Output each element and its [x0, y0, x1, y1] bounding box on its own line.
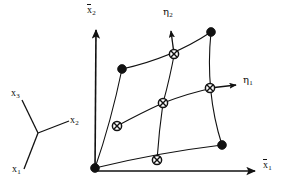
edge-left [95, 69, 122, 168]
node-4-corner [118, 65, 127, 74]
node-9-center [158, 98, 167, 107]
x2-arm-label-subscript: 2 [75, 119, 79, 127]
x3-arm-label-subscript: 3 [16, 92, 20, 100]
natural-axes-group [171, 31, 236, 88]
x1bar-axis-label-subscript: 1 [268, 164, 272, 172]
eta1-axis-label: η1 [243, 75, 253, 87]
figure-canvas: x2 x1 x3 x2 x1 η2 η1 [0, 0, 286, 189]
x2bar-axis-label: x2 [87, 5, 96, 17]
x1bar-axis-label: x1 [263, 160, 272, 172]
x2bar-axis-line [95, 30, 96, 171]
corner-nodes-group [91, 28, 227, 173]
node-2-corner [218, 141, 227, 150]
x2bar-axis-label-text: x [87, 5, 92, 15]
eta1-axis-label-subscript: 1 [249, 79, 253, 87]
node-7-midside-top [169, 49, 178, 58]
x1-arm-label-subscript: 1 [17, 168, 21, 176]
cartesian-triad-group [22, 100, 69, 169]
x3-arm-label: x3 [11, 88, 20, 100]
node-5-midside-bottom [152, 155, 161, 164]
edge-top [122, 32, 211, 69]
x2bar-axis-label-subscript: 2 [92, 9, 96, 17]
x2-arm-label: x2 [70, 115, 79, 127]
node-8-midside-left [112, 121, 121, 130]
node-3-corner [207, 28, 216, 37]
diagram-svg [0, 0, 286, 189]
eta2-axis-label: η2 [163, 7, 173, 19]
midside-nodes-group [112, 49, 214, 164]
x3-arm-line [22, 100, 38, 133]
x1bar-axis-label-text: x [263, 160, 268, 170]
x1-arm-line [24, 133, 38, 169]
x2-arm-line [38, 121, 69, 133]
eta2-axis-label-subscript: 2 [169, 11, 173, 19]
x1-arm-label: x1 [12, 164, 21, 176]
node-6-midside-right [205, 83, 214, 92]
node-1-corner [91, 164, 100, 173]
